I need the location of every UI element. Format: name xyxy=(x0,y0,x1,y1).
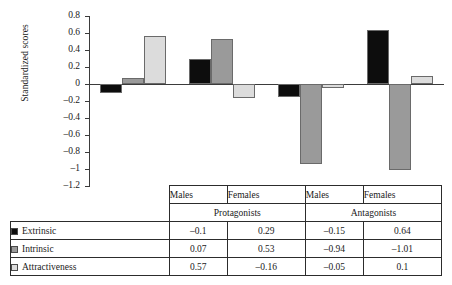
cell-extrinsic-females-antagonists: 0.64 xyxy=(363,222,441,240)
plot-area: 0.80.60.40.20–0.2–0.4–0.6–0.8–1–1.2 xyxy=(89,16,444,186)
table-row: Extrinsic –0.1 0.29 –0.15 0.64 xyxy=(11,222,442,240)
y-tick-label: –0.6 xyxy=(63,130,80,140)
bar-intrinsic-males-antagonists xyxy=(300,84,322,164)
group-header-males-protagonists: Males xyxy=(169,186,227,204)
y-tick: –1 xyxy=(85,169,90,170)
legend-item-extrinsic: Extrinsic xyxy=(11,222,170,240)
bar-attractiveness-males-antagonists xyxy=(322,84,344,88)
y-tick: 0.8 xyxy=(85,16,90,17)
y-tick-label: –1 xyxy=(71,164,81,174)
y-tick-label: –0.8 xyxy=(63,147,80,157)
bar-extrinsic-females-protagonists xyxy=(189,59,211,84)
y-tick: –0.2 xyxy=(85,101,90,102)
bar-attractiveness-females-antagonists xyxy=(411,76,433,85)
y-tick: –0.4 xyxy=(85,118,90,119)
table-row: Intrinsic 0.07 0.53 –0.94 –1.01 xyxy=(11,240,442,258)
table-row-group-names: Protagonists Antagonists xyxy=(11,204,442,222)
y-tick-label: 0.4 xyxy=(68,45,80,55)
group-name-antagonists: Antagonists xyxy=(305,204,441,222)
cell-extrinsic-females-protagonists: 0.29 xyxy=(227,222,305,240)
cell-intrinsic-males-antagonists: –0.94 xyxy=(305,240,363,258)
bar-attractiveness-males-protagonists xyxy=(144,36,166,84)
group-header-females-antagonists: Females xyxy=(363,186,441,204)
cell-attractiveness-females-protagonists: –0.16 xyxy=(227,258,305,276)
figure: Standardized scores 0.80.60.40.20–0.2–0.… xyxy=(0,0,452,285)
cell-extrinsic-males-antagonists: –0.15 xyxy=(305,222,363,240)
cell-attractiveness-males-protagonists: 0.57 xyxy=(169,258,227,276)
group-header-males-antagonists: Males xyxy=(305,186,363,204)
bar-intrinsic-females-protagonists xyxy=(211,39,233,84)
bar-attractiveness-females-protagonists xyxy=(233,84,255,98)
y-tick: 0.2 xyxy=(85,67,90,68)
y-tick-label: 0.2 xyxy=(68,62,80,72)
y-axis-title: Standardized scores xyxy=(20,0,30,128)
table-row-group-headers: Males Females Males Females xyxy=(11,186,442,204)
y-tick-label: 0 xyxy=(75,79,80,89)
group-name-protagonists: Protagonists xyxy=(169,204,305,222)
y-tick-label: –0.2 xyxy=(63,96,80,106)
cell-intrinsic-females-antagonists: –1.01 xyxy=(363,240,441,258)
cell-intrinsic-males-protagonists: 0.07 xyxy=(169,240,227,258)
legend-header-spacer xyxy=(11,186,170,204)
y-tick-label: 0.6 xyxy=(68,28,80,38)
cell-intrinsic-females-protagonists: 0.53 xyxy=(227,240,305,258)
y-tick-label: –0.4 xyxy=(63,113,80,123)
group-name-spacer xyxy=(11,204,170,222)
legend-label-attractiveness: Attractiveness xyxy=(22,262,76,272)
bar-extrinsic-females-antagonists xyxy=(367,30,389,84)
legend-item-intrinsic: Intrinsic xyxy=(11,240,170,258)
bar-extrinsic-males-antagonists xyxy=(278,84,300,97)
bar-extrinsic-males-protagonists xyxy=(100,84,122,93)
bar-intrinsic-females-antagonists xyxy=(389,84,411,170)
legend-label-extrinsic: Extrinsic xyxy=(22,226,56,236)
y-tick: –0.8 xyxy=(85,152,90,153)
legend-item-attractiveness: Attractiveness xyxy=(11,258,170,276)
y-tick: 0.6 xyxy=(85,33,90,34)
group-header-females-protagonists: Females xyxy=(227,186,305,204)
y-tick: 0.4 xyxy=(85,50,90,51)
legend-swatch-extrinsic-icon xyxy=(11,228,18,235)
bar-intrinsic-males-protagonists xyxy=(122,78,144,84)
legend-label-intrinsic: Intrinsic xyxy=(22,244,54,254)
legend-swatch-attractiveness-icon xyxy=(11,264,18,271)
y-tick-label: 0.8 xyxy=(68,11,80,21)
data-table: Males Females Males Females Protagonists… xyxy=(10,185,442,276)
cell-attractiveness-males-antagonists: –0.05 xyxy=(305,258,363,276)
y-tick: –0.6 xyxy=(85,135,90,136)
legend-swatch-intrinsic-icon xyxy=(11,246,18,253)
cell-attractiveness-females-antagonists: 0.1 xyxy=(363,258,441,276)
table-row: Attractiveness 0.57 –0.16 –0.05 0.1 xyxy=(11,258,442,276)
cell-extrinsic-males-protagonists: –0.1 xyxy=(169,222,227,240)
